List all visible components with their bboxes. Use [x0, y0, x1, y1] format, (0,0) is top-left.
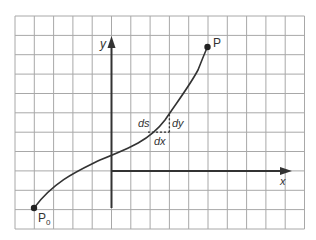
ds-label: ds	[138, 117, 150, 129]
x-axis	[112, 167, 293, 175]
point-p-label: P	[213, 36, 221, 50]
x-axis-arrow-icon	[280, 167, 292, 175]
x-axis-label: x	[279, 175, 286, 187]
differential-triangle	[148, 112, 169, 132]
point-p0-label: P0	[38, 211, 51, 227]
point-p0	[31, 205, 37, 211]
y-axis-arrow-icon	[108, 36, 116, 48]
y-axis-label: y	[99, 37, 107, 51]
y-axis	[108, 36, 116, 208]
grid	[15, 16, 305, 229]
dx-label: dx	[154, 135, 166, 147]
point-p	[204, 44, 210, 50]
dy-label: dy	[172, 117, 185, 129]
arc-length-diagram: y x P P0 ds dy dx	[0, 0, 316, 240]
